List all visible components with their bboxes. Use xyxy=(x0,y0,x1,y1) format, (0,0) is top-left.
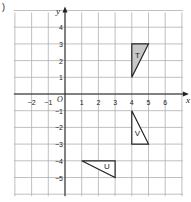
y-tick-label: −4 xyxy=(55,158,63,165)
y-tick-label: −3 xyxy=(55,141,63,148)
x-tick-label: 4 xyxy=(130,99,134,106)
y-tick-label: −1 xyxy=(55,108,63,115)
y-tick-label: −5 xyxy=(55,175,63,182)
x-tick-label: 2 xyxy=(96,99,100,106)
x-tick-label: 5 xyxy=(147,99,151,106)
x-tick-label: 6 xyxy=(163,99,167,106)
x-tick-label: 3 xyxy=(113,99,117,106)
x-tick-label: −2 xyxy=(28,99,36,106)
x-axis-label: x xyxy=(185,95,190,105)
coordinate-grid: xyO −2−11234564321−1−2−3−4−5 TVU xyxy=(0,0,191,202)
triangle-label: T xyxy=(135,51,140,60)
triangle-label: V xyxy=(135,129,141,138)
y-tick-label: 1 xyxy=(59,74,63,81)
origin-label: O xyxy=(57,95,63,104)
y-tick-label: 4 xyxy=(59,24,63,31)
x-tick-label: 1 xyxy=(80,99,84,106)
y-tick-label: −2 xyxy=(55,124,63,131)
y-tick-label: 3 xyxy=(59,41,63,48)
y-tick-label: 2 xyxy=(59,58,63,65)
x-tick-label: −1 xyxy=(44,99,52,106)
triangle-label: U xyxy=(104,162,110,171)
y-axis-label: y xyxy=(55,6,60,16)
